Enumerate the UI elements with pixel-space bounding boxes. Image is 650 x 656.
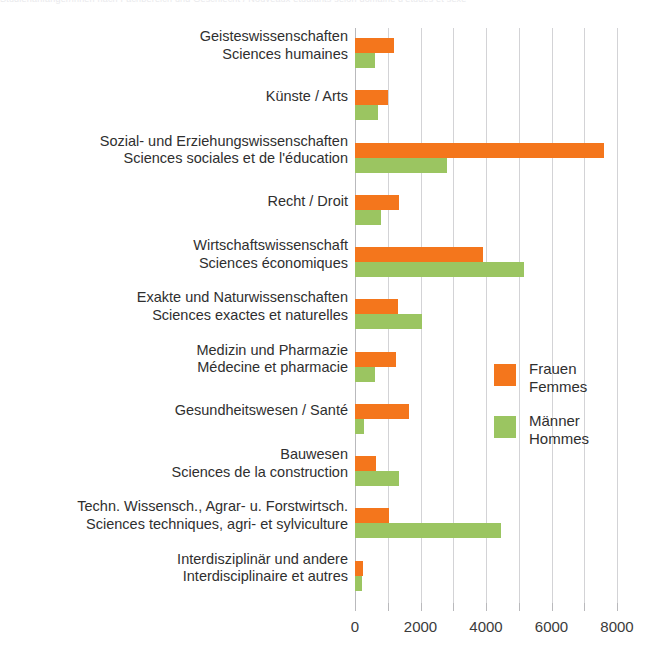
category-label: Exakte und NaturwissenschaftenSciences e… [3,289,348,324]
category-label-de: Interdisziplinär und andere [3,551,348,569]
category-label-de: Künste / Arts [3,88,348,106]
tick-label-4000: 4000 [469,618,502,635]
legend-label-men-fr: Hommes [529,430,589,448]
category-label-fr: Médecine et pharmacie [3,359,348,377]
tick-mark-8000 [617,603,618,611]
tick-mark-6000 [552,603,553,611]
category-label: BauwesenSciences de la construction [3,446,348,481]
tick-label-6000: 6000 [535,618,568,635]
category-label: Interdisziplinär und andereInterdiscipli… [3,551,348,586]
legend-label-women-fr: Femmes [529,378,587,396]
bar-men [355,367,375,382]
bar-women [355,352,396,367]
legend-swatch-men-icon [494,416,516,438]
bar-women [355,90,388,105]
tick-mark-1000 [388,603,389,611]
bar-men [355,53,375,68]
chart-title-cutoff: Studienanfänger/innen nach Fachbereich u… [0,0,650,10]
tick-mark-4000 [486,603,487,611]
category-label-de: Geisteswissenschaften [3,28,348,46]
tick-mark-5000 [519,603,520,611]
category-label-de: Recht / Droit [3,193,348,211]
bar-women [355,195,399,210]
category-label: Recht / Droit [3,193,348,211]
tick-mark-3000 [453,603,454,611]
chart-row: Sozial- und ErziehungswissenschaftenScie… [0,133,650,185]
category-label: Sozial- und ErziehungswissenschaftenScie… [3,133,348,168]
legend-label-women: Frauen Femmes [529,360,587,396]
chart-row: Recht / Droit [0,185,650,237]
bar-men [355,314,422,329]
category-label-fr: Sciences de la construction [3,464,348,482]
bar-women [355,404,409,419]
bar-women [355,38,394,53]
chart-row: BauwesenSciences de la construction [0,446,650,498]
bar-men [355,105,378,120]
chart-row: Interdisziplinär und andereInterdiscipli… [0,551,650,603]
bar-women [355,456,376,471]
category-label-de: Sozial- und Erziehungswissenschaften [3,133,348,151]
category-label-de: Techn. Wissensch., Agrar- u. Forstwirtsc… [3,498,348,516]
chart-row: WirtschaftswissenschaftSciences économiq… [0,237,650,289]
legend-label-men: Männer Hommes [529,412,589,448]
category-label-fr: Sciences techniques, agri- et sylvicultu… [3,516,348,534]
bar-men [355,158,447,173]
category-label-fr: Sciences exactes et naturelles [3,307,348,325]
bar-men [355,262,524,277]
bar-women [355,247,483,262]
category-label: Künste / Arts [3,88,348,106]
legend-swatch-women-icon [494,364,516,386]
category-label-fr: Sciences sociales et de l'éducation [3,150,348,168]
category-label-de: Medizin und Pharmazie [3,342,348,360]
bar-women [355,143,604,158]
category-label: Medizin und PharmazieMédecine et pharmac… [3,342,348,377]
bar-men [355,210,381,225]
bar-chart: Studienanfänger/innen nach Fachbereich u… [0,0,650,656]
category-label-de: Exakte und Naturwissenschaften [3,289,348,307]
chart-row: Exakte und NaturwissenschaftenSciences e… [0,289,650,341]
category-label: WirtschaftswissenschaftSciences économiq… [3,237,348,272]
tick-mark-7000 [584,603,585,611]
tick-mark-0 [355,603,356,611]
category-label-de: Wirtschaftswissenschaft [3,237,348,255]
bar-men [355,576,362,591]
category-label: Techn. Wissensch., Agrar- u. Forstwirtsc… [3,498,348,533]
bar-men [355,523,501,538]
tick-mark-2000 [421,603,422,611]
chart-row: Techn. Wissensch., Agrar- u. Forstwirtsc… [0,498,650,550]
tick-label-0: 0 [351,618,359,635]
tick-label-8000: 8000 [600,618,633,635]
chart-row: GeisteswissenschaftenSciences humaines [0,28,650,80]
tick-label-2000: 2000 [404,618,437,635]
category-label-fr: Interdisciplinaire et autres [3,568,348,586]
legend-label-women-de: Frauen [529,360,587,378]
category-label-de: Bauwesen [3,446,348,464]
category-label-fr: Sciences économiques [3,255,348,273]
bar-women [355,508,389,523]
category-rows: GeisteswissenschaftenSciences humainesKü… [0,28,650,603]
bar-women [355,561,363,576]
category-label: GeisteswissenschaftenSciences humaines [3,28,348,63]
legend-label-men-de: Männer [529,412,589,430]
category-label: Gesundheitswesen / Santé [3,402,348,420]
category-label-fr: Sciences humaines [3,46,348,64]
category-label-de: Gesundheitswesen / Santé [3,402,348,420]
bar-men [355,419,364,434]
bar-women [355,299,398,314]
chart-row: Künste / Arts [0,80,650,132]
bar-men [355,471,399,486]
